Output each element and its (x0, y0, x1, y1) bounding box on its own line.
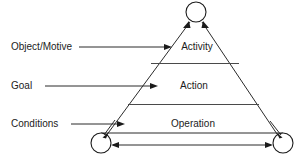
arrowhead-conditions (117, 121, 125, 127)
hierarchy-diagram: Object/Motive Goal Conditions Activity A… (0, 0, 302, 161)
arrowhead-connector-right (265, 142, 273, 148)
bottom-right-node (273, 133, 293, 153)
label-operation: Operation (171, 118, 215, 129)
label-conditions: Conditions (11, 118, 58, 129)
bottom-left-node (91, 133, 111, 153)
nodes (91, 2, 293, 153)
diagram-canvas: Object/Motive Goal Conditions Activity A… (0, 0, 302, 161)
label-action: Action (180, 80, 208, 91)
label-object-motive: Object/Motive (11, 41, 73, 52)
label-activity: Activity (181, 41, 213, 52)
arrowhead-object-motive (164, 44, 172, 50)
arrowhead-connector-left (111, 142, 119, 148)
label-goal: Goal (11, 80, 32, 91)
arrowhead-goal (150, 83, 158, 89)
bottom-bidirectional-connector (111, 142, 273, 148)
leader-object-motive (79, 44, 172, 50)
apex-node (186, 2, 206, 22)
